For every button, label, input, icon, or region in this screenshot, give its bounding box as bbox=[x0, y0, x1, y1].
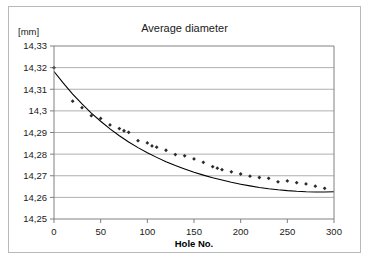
chart-frame: [mm] Average diameter 14,2514,2614,2714,… bbox=[8, 6, 361, 253]
y-tick-label: 14,29 bbox=[23, 127, 47, 138]
x-tick-label: 100 bbox=[139, 226, 155, 237]
x-tick-label: 200 bbox=[233, 226, 249, 237]
x-axis-title: Hole No. bbox=[175, 238, 214, 249]
x-tick-label: 150 bbox=[186, 226, 202, 237]
plot-area: 14,2514,2614,2714,2814,2914,314,3114,321… bbox=[9, 7, 362, 254]
y-axis-ticks: 14,2514,2614,2714,2814,2914,314,3114,321… bbox=[23, 40, 54, 224]
x-tick-label: 0 bbox=[51, 226, 56, 237]
y-tick-label: 14,32 bbox=[23, 62, 47, 73]
y-tick-label: 14,27 bbox=[23, 170, 47, 181]
x-axis-ticks: 050100150200250300 bbox=[51, 219, 342, 237]
x-tick-label: 250 bbox=[279, 226, 295, 237]
y-tick-label: 14,3 bbox=[29, 105, 48, 116]
y-tick-label: 14,33 bbox=[23, 40, 47, 51]
x-tick-label: 50 bbox=[95, 226, 106, 237]
y-tick-label: 14,26 bbox=[23, 192, 47, 203]
y-tick-label: 14,31 bbox=[23, 84, 47, 95]
y-tick-label: 14,25 bbox=[23, 213, 47, 224]
y-tick-label: 14,28 bbox=[23, 149, 47, 160]
x-tick-label: 300 bbox=[326, 226, 342, 237]
